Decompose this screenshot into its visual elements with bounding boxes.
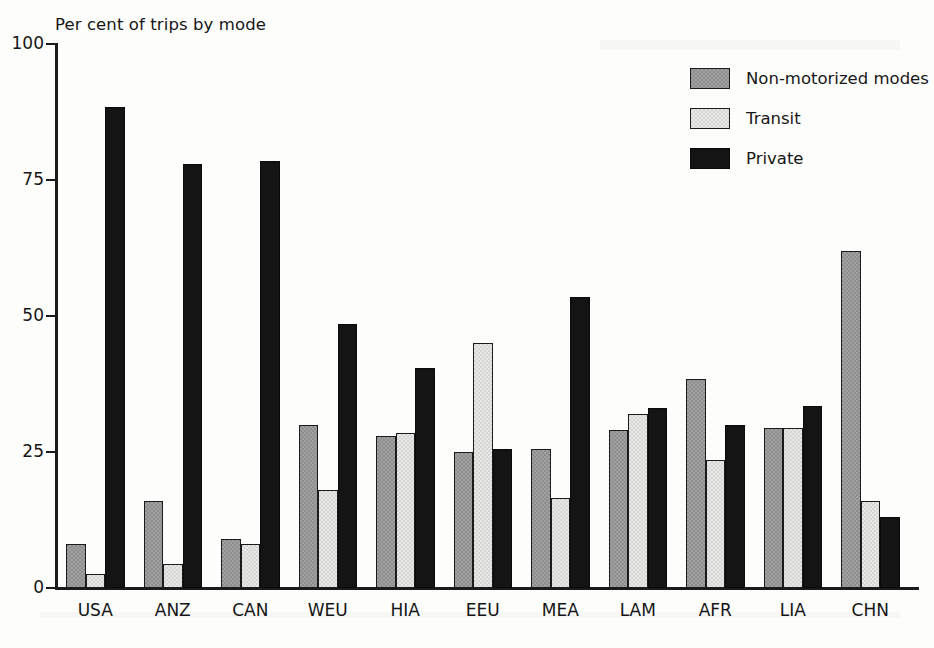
y-tick-mark: [46, 587, 55, 589]
bar-chn-series2: [880, 517, 900, 588]
x-axis-label-hia: HIA: [362, 600, 449, 620]
bar-eeu-series0: [454, 452, 474, 588]
x-axis-label-lia: LIA: [750, 600, 837, 620]
y-tick-label: 75: [22, 169, 44, 189]
bar-usa-series1: [86, 574, 106, 588]
bar-can-series1: [241, 544, 261, 588]
x-axis-label-usa: USA: [52, 600, 139, 620]
bar-hia-series2: [415, 368, 435, 588]
legend-swatch-2: [690, 148, 730, 169]
bar-group: [144, 44, 203, 588]
bar-group: [66, 44, 125, 588]
bar-afr-series2: [725, 425, 745, 588]
legend-label: Transit: [746, 109, 801, 128]
bar-eeu-series1: [473, 343, 493, 588]
bar-group: [454, 44, 513, 588]
bar-afr-series1: [706, 460, 726, 588]
bar-lam-series2: [648, 408, 668, 588]
bar-weu-series1: [318, 490, 338, 588]
bar-mea-series1: [551, 498, 571, 588]
x-axis-label-afr: AFR: [672, 600, 759, 620]
x-axis-label-chn: CHN: [827, 600, 914, 620]
bar-can-series2: [260, 161, 280, 588]
x-axis-label-lam: LAM: [595, 600, 682, 620]
y-tick-label: 50: [22, 305, 44, 325]
bar-lia-series1: [783, 428, 803, 588]
x-axis-label-eeu: EEU: [440, 600, 527, 620]
y-tick-mark: [46, 179, 55, 181]
bar-group: [531, 44, 590, 588]
bar-hia-series1: [396, 433, 416, 588]
bar-anz-series2: [183, 164, 203, 588]
x-axis-label-weu: WEU: [285, 600, 372, 620]
y-tick-label: 100: [12, 33, 44, 53]
bar-chn-series0: [841, 251, 861, 588]
bar-hia-series0: [376, 436, 396, 588]
bar-group: [299, 44, 358, 588]
bar-lia-series0: [764, 428, 784, 588]
bar-can-series0: [221, 539, 241, 588]
bar-lam-series0: [609, 430, 629, 588]
legend-item: Transit: [690, 102, 930, 135]
bar-weu-series2: [338, 324, 358, 588]
bar-usa-series0: [66, 544, 86, 588]
y-tick-label: 25: [22, 441, 44, 461]
bar-usa-series2: [105, 107, 125, 588]
bar-anz-series0: [144, 501, 164, 588]
legend-item: Non-motorized modes: [690, 62, 930, 95]
bar-mea-series2: [570, 297, 590, 588]
y-tick-mark: [46, 451, 55, 453]
y-tick-label: 0: [33, 577, 44, 597]
legend-item: Private: [690, 142, 930, 175]
bar-anz-series1: [163, 564, 183, 588]
legend-swatch-0: [690, 68, 730, 89]
legend-label: Non-motorized modes: [746, 69, 929, 88]
bar-lia-series2: [803, 406, 823, 588]
bar-lam-series1: [628, 414, 648, 588]
bar-chn-series1: [861, 501, 881, 588]
bar-weu-series0: [299, 425, 319, 588]
legend-label: Private: [746, 149, 804, 168]
bar-group: [376, 44, 435, 588]
y-tick-mark: [46, 315, 55, 317]
legend-swatch-1: [690, 108, 730, 129]
x-axis-label-mea: MEA: [517, 600, 604, 620]
bar-mea-series0: [531, 449, 551, 588]
x-axis-label-can: CAN: [207, 600, 294, 620]
chart-legend: Non-motorized modesTransitPrivate: [690, 62, 930, 182]
bar-group: [221, 44, 280, 588]
chart-figure: Per cent of trips by mode 0255075100 USA…: [0, 0, 934, 648]
x-axis-label-anz: ANZ: [130, 600, 217, 620]
chart-title: Per cent of trips by mode: [55, 15, 266, 34]
y-tick-mark: [46, 43, 55, 45]
bar-group: [609, 44, 668, 588]
bar-afr-series0: [686, 379, 706, 588]
bar-eeu-series2: [493, 449, 513, 588]
